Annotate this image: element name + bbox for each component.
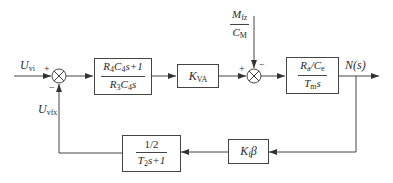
controller-denominator: R3C4s: [108, 77, 138, 92]
filter-denominator: T2s+1: [136, 153, 167, 168]
amplifier-block: KVA: [177, 64, 219, 88]
plant-numerator: Ra/Ce: [298, 60, 326, 75]
input-signal-label: Uvi: [20, 59, 35, 73]
controller-numerator: R4C4s+1: [101, 61, 144, 76]
sum1-plus-sign: +: [44, 64, 50, 74]
sum2-minus-sign: −: [259, 60, 265, 70]
controller-block: R4C4s+1 R3C4s: [94, 58, 152, 95]
sum1-minus-sign: −: [49, 83, 55, 93]
output-signal-label: N(s): [345, 59, 366, 71]
disturbance-label: Mfz CM: [230, 9, 249, 40]
feedback-filter-block: 1/2 T2s+1: [122, 135, 181, 172]
sum2-plus-sign: +: [239, 64, 245, 74]
plant-denominator: Tms: [302, 76, 323, 91]
plant-block: Ra/Ce Tms: [286, 57, 339, 94]
feedback-signal-label: Uvfx: [38, 103, 57, 117]
filter-numerator: 1/2: [142, 139, 160, 152]
feedback-gain-block: Kfβ: [228, 139, 269, 164]
